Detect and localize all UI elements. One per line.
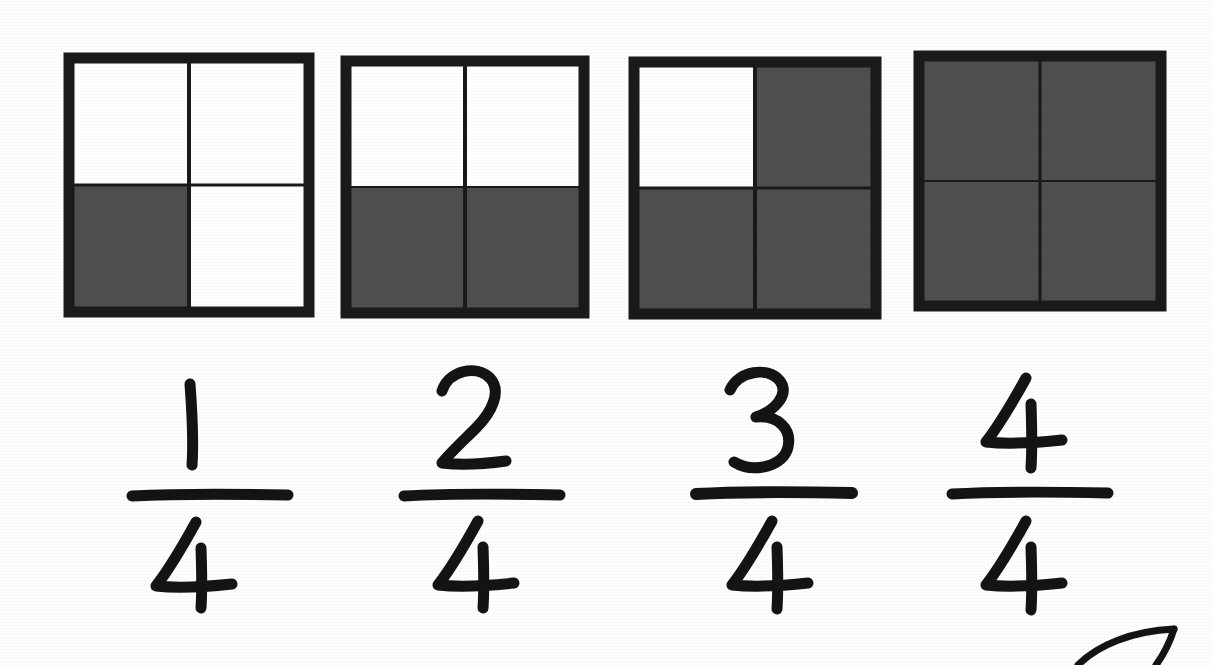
fraction-3-denominator-diagonal xyxy=(732,521,808,586)
fraction-4-numerator-stem xyxy=(1031,404,1032,468)
fraction-4-numerator-diagonal xyxy=(986,378,1062,443)
fraction-4: 4/4 xyxy=(940,358,1150,610)
fraction-4-drawing xyxy=(940,358,1150,610)
fraction-4-denominator-stem xyxy=(1031,547,1032,610)
fraction-2-bar xyxy=(404,494,560,496)
fraction-1-numerator-glyph xyxy=(190,384,193,465)
square-3-quadrant-top-right xyxy=(755,62,876,188)
fraction-1-bar xyxy=(132,494,288,496)
square-diagram-3 xyxy=(628,56,882,320)
fraction-2: 2/4 xyxy=(398,358,598,608)
fraction-4-denominator-diagonal xyxy=(986,521,1062,586)
fraction-3-drawing xyxy=(690,360,890,610)
square-1-quadrant-bottom-left xyxy=(69,185,189,312)
figure-4-square xyxy=(913,50,1167,312)
fraction-1-drawing xyxy=(118,365,318,610)
partial-stroke-mark xyxy=(1070,612,1214,665)
partial-stroke-tail xyxy=(1156,629,1174,665)
worksheet-page: 1/4 2/4 xyxy=(0,0,1214,665)
figures-row xyxy=(0,0,1214,340)
fraction-2-denominator-stem xyxy=(483,547,484,608)
square-diagram-4 xyxy=(913,50,1167,312)
fraction-3-numerator-glyph xyxy=(730,372,789,467)
fraction-1-denominator-diagonal xyxy=(156,522,232,587)
fraction-1-denominator-stem xyxy=(201,548,202,608)
fraction-3: 3/4 xyxy=(690,360,890,610)
figure-2-square xyxy=(340,55,590,319)
figure-1-square xyxy=(63,52,315,318)
fraction-2-denominator-diagonal xyxy=(438,521,514,586)
fraction-2-numerator-glyph xyxy=(442,371,506,464)
fraction-3-denominator-stem xyxy=(777,547,778,609)
fraction-2-drawing xyxy=(398,358,598,608)
figure-3-square xyxy=(628,56,882,320)
square-diagram-2 xyxy=(340,55,590,319)
square-diagram-1 xyxy=(63,52,315,318)
fraction-1: 1/4 xyxy=(118,365,318,610)
fraction-3-bar xyxy=(696,492,852,494)
partial-stroke-drawing xyxy=(1070,612,1214,665)
fractions-row: 1/4 2/4 xyxy=(0,340,1214,620)
fraction-4-bar xyxy=(952,492,1108,494)
